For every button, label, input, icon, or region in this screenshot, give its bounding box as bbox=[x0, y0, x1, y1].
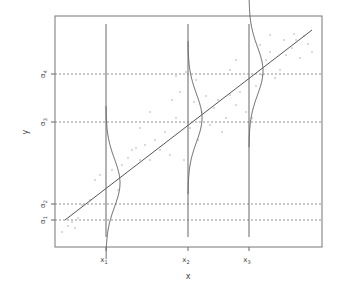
data-point bbox=[235, 59, 236, 60]
data-point bbox=[67, 225, 68, 226]
y-tick-label: α4 bbox=[39, 70, 48, 78]
data-point bbox=[229, 69, 230, 70]
data-point bbox=[61, 231, 62, 232]
data-point bbox=[149, 159, 150, 160]
data-point bbox=[283, 39, 284, 40]
data-point bbox=[229, 94, 230, 95]
data-point bbox=[307, 43, 308, 44]
data-point bbox=[117, 189, 118, 190]
data-point bbox=[164, 131, 165, 132]
data-point bbox=[269, 51, 270, 52]
data-point bbox=[205, 95, 206, 96]
data-point bbox=[111, 169, 112, 170]
data-point bbox=[127, 157, 128, 158]
data-point bbox=[265, 59, 266, 60]
scatter-points bbox=[61, 33, 312, 232]
data-point bbox=[81, 204, 82, 205]
data-point bbox=[209, 124, 210, 125]
data-point bbox=[299, 57, 300, 58]
data-point bbox=[77, 217, 78, 218]
x-tick-label: x2 bbox=[182, 256, 189, 265]
data-point bbox=[135, 147, 136, 148]
data-point bbox=[274, 77, 275, 78]
data-point bbox=[159, 149, 160, 150]
ordinal-regression-chart: x1x2x3 α1α2α3α4 x y bbox=[0, 0, 339, 297]
data-point bbox=[183, 159, 184, 160]
data-point bbox=[171, 99, 172, 100]
data-point bbox=[149, 111, 150, 112]
data-point bbox=[131, 149, 132, 150]
y-tick-label: α1 bbox=[39, 216, 48, 224]
data-point bbox=[255, 85, 256, 86]
data-point bbox=[121, 164, 122, 165]
data-point bbox=[293, 33, 294, 34]
data-point bbox=[195, 79, 196, 80]
data-point bbox=[189, 127, 190, 128]
data-point bbox=[94, 179, 95, 180]
data-point bbox=[144, 144, 145, 145]
data-point bbox=[99, 174, 100, 175]
x-axis-ticks: x1x2x3 bbox=[100, 247, 250, 265]
data-point bbox=[285, 54, 286, 55]
data-point bbox=[291, 47, 292, 48]
data-point bbox=[217, 99, 218, 100]
data-point bbox=[225, 117, 226, 118]
data-point bbox=[235, 104, 236, 105]
data-point bbox=[311, 51, 312, 52]
y-axis-ticks: α1α2α3α4 bbox=[39, 70, 55, 224]
data-point bbox=[154, 139, 155, 140]
data-point bbox=[269, 34, 270, 35]
data-point bbox=[193, 101, 194, 102]
data-point bbox=[139, 159, 140, 160]
data-point bbox=[74, 227, 75, 228]
x-tick-label: x3 bbox=[243, 256, 250, 265]
data-point bbox=[175, 117, 176, 118]
data-point bbox=[175, 75, 176, 76]
data-point bbox=[185, 71, 186, 72]
data-point bbox=[279, 69, 280, 70]
data-point bbox=[213, 107, 214, 108]
data-point bbox=[245, 111, 246, 112]
data-point bbox=[221, 131, 222, 132]
y-tick-label: α3 bbox=[39, 118, 48, 126]
data-point bbox=[239, 91, 240, 92]
data-point bbox=[295, 39, 296, 40]
density-curve-x2 bbox=[188, 41, 202, 194]
y-tick-label: α2 bbox=[39, 200, 48, 208]
data-point bbox=[169, 154, 170, 155]
y-axis-label: y bbox=[21, 129, 30, 134]
data-point bbox=[259, 44, 260, 45]
data-point bbox=[71, 221, 72, 222]
data-point bbox=[179, 91, 180, 92]
data-point bbox=[139, 127, 140, 128]
x-axis-label: x bbox=[186, 272, 191, 281]
